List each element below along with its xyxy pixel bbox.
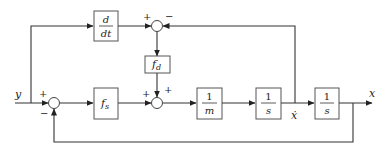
integrator1-block: 1 s bbox=[256, 88, 281, 119]
svg-text:1: 1 bbox=[324, 91, 330, 102]
fd-block: fd bbox=[145, 56, 170, 73]
svg-text:1: 1 bbox=[265, 91, 271, 102]
fs-block: fs bbox=[94, 88, 118, 119]
block-diagram: d dt + − fd + − y fs + + bbox=[0, 0, 390, 154]
svg-text:+: + bbox=[143, 11, 151, 22]
sum-top: + − bbox=[143, 11, 173, 32]
integrator2-block: 1 s bbox=[315, 88, 339, 119]
svg-text:+: + bbox=[142, 88, 150, 99]
svg-text:+: + bbox=[39, 88, 47, 99]
inv-mass-block: 1 m bbox=[197, 88, 222, 119]
derivative-block: d dt bbox=[94, 11, 118, 41]
svg-text:m: m bbox=[205, 105, 214, 116]
input-label: y bbox=[14, 88, 22, 101]
svg-text:1: 1 bbox=[206, 91, 212, 102]
output-label: x bbox=[369, 87, 376, 100]
svg-text:−: − bbox=[165, 11, 173, 22]
svg-text:s: s bbox=[324, 105, 329, 116]
velocity-label: ẋ bbox=[291, 109, 298, 122]
svg-text:s: s bbox=[266, 105, 271, 116]
svg-text:−: − bbox=[40, 108, 48, 119]
svg-text:d: d bbox=[103, 14, 109, 25]
svg-text:+: + bbox=[164, 84, 172, 95]
svg-text:dt: dt bbox=[101, 28, 112, 39]
